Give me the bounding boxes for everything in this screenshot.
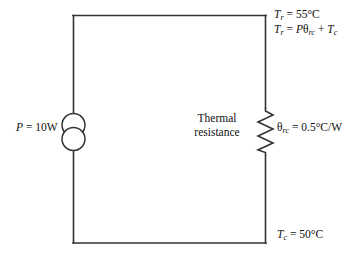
current-source-symbol: [62, 114, 85, 151]
source-power-label: P = 10W: [16, 121, 58, 135]
theta-units: °C/W: [316, 121, 342, 133]
equation-plus: +: [315, 23, 327, 35]
bottom-node-temp-equals: =: [287, 228, 299, 240]
top-node-temp-equals: =: [284, 8, 296, 20]
source-power-value: 10W: [35, 121, 57, 133]
thermal-resistance-value-label: θrc = 0.5°C/W: [277, 121, 342, 136]
bottom-node-temperature-label: Tc = 50°C: [277, 228, 323, 243]
equation-tc-subscript: c: [334, 28, 338, 37]
theta-equals: =: [289, 121, 301, 133]
equation-equals: =: [284, 23, 296, 35]
resistance-caption-line1: Thermal: [186, 112, 248, 126]
thermal-circuit-figure: Tr = 55°C Tr = Pθrc + Tc θrc = 0.5°C/W T…: [0, 0, 362, 261]
resistor-zigzag-symbol: [258, 108, 273, 155]
bottom-node-temp-units: °C: [311, 228, 323, 240]
source-power-variable: P: [16, 121, 23, 133]
top-node-equation-label: Tr = Pθrc + Tc: [274, 23, 337, 38]
source-power-equals: =: [23, 121, 35, 133]
thermal-resistance-caption: Thermal resistance: [186, 112, 248, 139]
resistance-caption-line2: resistance: [186, 126, 248, 140]
top-node-label-group: Tr = 55°C Tr = Pθrc + Tc: [274, 8, 337, 38]
top-node-temp-units: °C: [307, 8, 319, 20]
theta-number: 0.5: [301, 121, 315, 133]
top-node-temp-value: 55: [296, 8, 308, 20]
top-node-temperature-label: Tr = 55°C: [274, 8, 337, 23]
bottom-node-temp-value: 50: [299, 228, 311, 240]
equation-theta-subscript: rc: [308, 28, 315, 37]
equation-power-symbol: P: [296, 23, 303, 35]
